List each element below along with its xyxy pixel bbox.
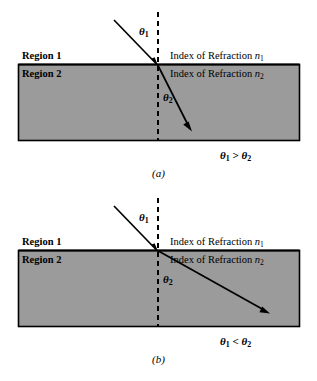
region-2-label-a: Region 2 bbox=[22, 69, 61, 80]
theta-2-sub-a: 2 bbox=[169, 96, 173, 105]
index-refraction-1-prefix-a: Index of Refraction bbox=[170, 50, 255, 61]
index-refraction-2-label-b: Index of Refraction n2 bbox=[170, 255, 264, 267]
panel-a-graphics bbox=[0, 0, 317, 190]
index-refraction-2-sub-b: 2 bbox=[260, 258, 264, 267]
caption-a: (a) bbox=[0, 168, 317, 179]
angle-relation-right-sub-b: 2 bbox=[247, 340, 251, 349]
panel-b: Region 1 Region 2 Index of Refraction n1… bbox=[0, 190, 317, 381]
incident-ray-a bbox=[114, 20, 157, 64]
index-refraction-2-sub-a: 2 bbox=[260, 72, 264, 81]
theta-1-sub-b: 1 bbox=[145, 216, 149, 225]
index-refraction-1-prefix-b: Index of Refraction bbox=[170, 236, 255, 247]
theta-1-sub-a: 1 bbox=[145, 30, 149, 39]
refraction-figure: Region 1 Region 2 Index of Refraction n1… bbox=[0, 0, 317, 381]
theta-1-label-b: θ1 bbox=[139, 212, 149, 225]
index-refraction-1-sub-a: 1 bbox=[260, 54, 264, 63]
theta-2-label-b: θ2 bbox=[163, 274, 173, 287]
index-refraction-1-sub-b: 1 bbox=[260, 240, 264, 249]
theta-1-label-a: θ1 bbox=[139, 26, 149, 39]
angle-relation-b: θ1 < θ2 bbox=[220, 336, 251, 349]
theta-2-label-a: θ2 bbox=[163, 92, 173, 105]
index-refraction-2-label-a: Index of Refraction n2 bbox=[170, 69, 264, 81]
region-1-label-b: Region 1 bbox=[22, 237, 61, 248]
angle-relation-left-sub-a: 1 bbox=[226, 154, 230, 163]
index-refraction-1-label-a: Index of Refraction n1 bbox=[170, 51, 264, 63]
index-refraction-2-prefix-a: Index of Refraction bbox=[170, 68, 255, 79]
region-1-label-a: Region 1 bbox=[22, 51, 61, 62]
panel-a: Region 1 Region 2 Index of Refraction n1… bbox=[0, 0, 317, 190]
region-2-label-b: Region 2 bbox=[22, 255, 61, 266]
theta-2-sub-b: 2 bbox=[169, 278, 173, 287]
caption-b: (b) bbox=[0, 354, 317, 365]
angle-relation-operator-b: < bbox=[232, 335, 238, 347]
angle-relation-operator-a: > bbox=[232, 149, 238, 161]
index-refraction-1-label-b: Index of Refraction n1 bbox=[170, 237, 264, 249]
angle-relation-left-sub-b: 1 bbox=[226, 340, 230, 349]
angle-relation-a: θ1 > θ2 bbox=[220, 150, 251, 163]
incident-ray-b bbox=[114, 206, 157, 250]
index-refraction-2-prefix-b: Index of Refraction bbox=[170, 254, 255, 265]
angle-relation-right-sub-a: 2 bbox=[247, 154, 251, 163]
